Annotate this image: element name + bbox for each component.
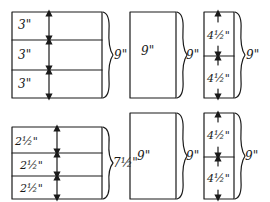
segment-label: 3" xyxy=(18,18,31,32)
total-label: 9" xyxy=(245,149,258,163)
curly-brace-icon xyxy=(103,12,113,98)
segment-label: 4½" xyxy=(206,72,230,85)
dimension-diagram: 3" 3" 3" 9" 9" 9" 4½" 4½" 9" 2½" 2½" 2½"… xyxy=(0,0,270,202)
total-label: 9" xyxy=(186,149,199,163)
total-label: 9" xyxy=(114,48,127,62)
total-label: 7½" xyxy=(113,156,138,170)
block-label: 9" xyxy=(141,44,154,58)
top-single-block: 9" 9" xyxy=(130,12,199,98)
block-label: 9" xyxy=(137,149,150,163)
top-stack-of-two: 4½" 4½" 9" xyxy=(204,12,259,98)
segment-label: 4½" xyxy=(206,29,230,42)
curly-brace-icon xyxy=(103,127,113,199)
bottom-two-box-outline xyxy=(204,113,234,199)
total-label: 9" xyxy=(186,48,199,62)
segment-label: 4½" xyxy=(206,172,230,185)
segment-label: 3" xyxy=(18,48,31,62)
top-stack-of-three: 3" 3" 3" 9" xyxy=(12,12,127,98)
total-label: 9" xyxy=(246,48,259,62)
curly-brace-icon xyxy=(235,12,245,98)
segment-label: 3" xyxy=(18,77,31,91)
segment-label: 2½" xyxy=(14,135,38,148)
bottom-single-block: 9" 9" xyxy=(130,113,199,199)
curly-brace-icon xyxy=(235,113,245,199)
segment-label: 2½" xyxy=(19,159,43,172)
segment-label: 2½" xyxy=(19,182,43,195)
top-two-box-outline xyxy=(204,12,234,98)
bottom-stack-of-two: 4½" 4½" 9" xyxy=(204,113,258,199)
segment-label: 4½" xyxy=(206,129,230,142)
bottom-stack-of-three: 2½" 2½" 2½" 7½" xyxy=(12,127,138,199)
